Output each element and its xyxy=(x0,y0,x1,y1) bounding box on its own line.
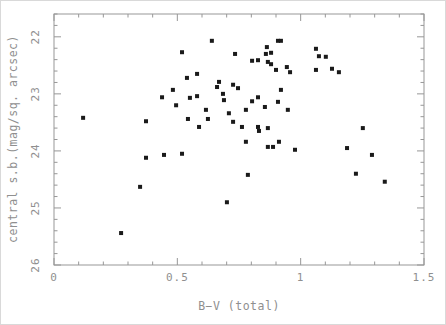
data-point xyxy=(236,86,240,90)
data-point xyxy=(195,94,199,98)
data-point xyxy=(265,45,269,49)
data-point xyxy=(160,95,164,99)
x-tick-label: 1.5 xyxy=(413,271,436,284)
x-tick-label: 1 xyxy=(297,271,305,284)
data-point xyxy=(233,52,237,56)
data-point xyxy=(330,67,334,71)
data-point xyxy=(144,119,148,123)
data-point xyxy=(256,95,260,99)
data-point xyxy=(180,50,184,54)
data-point xyxy=(225,200,229,204)
data-point xyxy=(337,70,341,74)
y-tick-label: 24 xyxy=(29,143,42,158)
data-point xyxy=(180,152,184,156)
data-point xyxy=(274,68,278,72)
x-tick-label: 0 xyxy=(50,271,58,284)
data-point xyxy=(222,98,226,102)
data-point xyxy=(250,59,254,63)
plot-frame xyxy=(54,14,424,265)
data-point xyxy=(269,51,273,55)
data-point xyxy=(204,108,208,112)
data-point xyxy=(246,173,250,177)
data-point xyxy=(279,39,283,43)
data-point xyxy=(138,185,142,189)
data-point xyxy=(186,117,190,121)
data-point xyxy=(188,96,192,100)
figure-scatter-plot: 00.511.52223242526 B−V (total) central s… xyxy=(0,0,446,325)
data-point xyxy=(354,172,358,176)
data-point xyxy=(231,83,235,87)
data-point xyxy=(314,47,318,51)
data-point xyxy=(171,88,175,92)
data-point xyxy=(256,125,260,129)
x-tick-label: 0.5 xyxy=(166,271,189,284)
data-point xyxy=(277,140,281,144)
data-point xyxy=(361,126,365,130)
data-point xyxy=(286,108,290,112)
data-point xyxy=(174,103,178,107)
data-point xyxy=(206,117,210,121)
data-point xyxy=(271,145,275,149)
data-point xyxy=(227,111,231,115)
data-point xyxy=(215,85,219,89)
data-point xyxy=(221,92,225,96)
data-point xyxy=(324,55,328,59)
data-point xyxy=(285,65,289,69)
data-point xyxy=(81,116,85,120)
data-point xyxy=(250,99,254,103)
data-point xyxy=(266,126,270,130)
data-point xyxy=(288,70,292,74)
y-tick-label: 22 xyxy=(29,29,42,44)
data-point xyxy=(257,129,261,133)
data-point xyxy=(244,108,248,112)
y-tick-label: 26 xyxy=(29,257,42,272)
data-point xyxy=(256,58,260,62)
scatter-plot: 00.511.52223242526 B−V (total) central s… xyxy=(1,1,446,325)
y-tick-label: 23 xyxy=(29,86,42,101)
data-point xyxy=(276,100,280,104)
data-point xyxy=(269,62,273,66)
data-point xyxy=(314,68,318,72)
data-point xyxy=(240,125,244,129)
x-axis-title: B−V (total) xyxy=(198,299,280,313)
data-point xyxy=(264,52,268,56)
y-tick-label: 25 xyxy=(29,200,42,215)
data-point xyxy=(162,153,166,157)
data-point xyxy=(197,125,201,129)
data-point xyxy=(370,153,374,157)
data-point xyxy=(210,39,214,43)
data-point xyxy=(263,105,267,109)
data-point xyxy=(119,231,123,235)
data-point xyxy=(266,145,270,149)
data-point xyxy=(279,88,283,92)
data-point xyxy=(293,148,297,152)
y-axis-title: central s.b.(mag/sq. arcsec) xyxy=(6,35,20,243)
data-point xyxy=(185,76,189,80)
plot-frame-group: 00.511.52223242526 xyxy=(29,14,435,284)
data-point xyxy=(231,120,235,124)
data-point xyxy=(217,80,221,84)
data-point xyxy=(317,54,321,58)
data-point xyxy=(195,72,199,76)
data-point xyxy=(244,140,248,144)
data-point xyxy=(144,156,148,160)
data-point xyxy=(345,146,349,150)
data-point xyxy=(383,180,387,184)
